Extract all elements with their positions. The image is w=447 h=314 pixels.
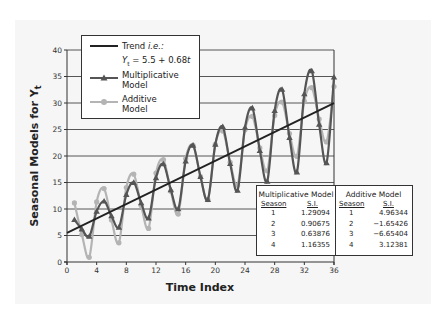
additive-season-2: 2 (349, 220, 353, 228)
multiplicative-point-t30 (286, 134, 292, 140)
y-tick-label-15: 15 (52, 178, 62, 187)
x-tick-label-36: 36 (329, 266, 339, 275)
additive-point-t4 (94, 199, 99, 204)
multiplicative-season-2: 2 (271, 220, 275, 228)
y-axis-title: Seasonal Models for Yt (28, 85, 43, 226)
additive-swatch (90, 97, 118, 107)
multiplicative-si-title: Multiplicative Model (257, 190, 335, 199)
additive-season-1: 1 (349, 209, 353, 217)
x-tick-label-32: 32 (300, 266, 310, 275)
x-tick-label-0: 0 (65, 266, 70, 275)
y-tick-label-40: 40 (52, 46, 62, 55)
y-tick-label-0: 0 (57, 258, 62, 267)
y-tick-label-25: 25 (52, 125, 62, 134)
x-tick-label-24: 24 (240, 266, 250, 275)
additive-si-value-2: −1.65426 (373, 220, 408, 228)
formula-t: t (187, 55, 190, 65)
multiplicative-point-t8 (123, 191, 129, 197)
additive-si-section: Additive Model Season S.I. 14.963442−1.6… (335, 186, 412, 255)
additive-point-t15 (176, 211, 181, 216)
multiplicative-si-header: S.I. (307, 200, 318, 208)
y-tick-label-10: 10 (52, 205, 62, 214)
multiplicative-season-1: 1 (271, 209, 275, 217)
additive-point-t3 (87, 255, 92, 260)
x-tick-label-4: 4 (94, 266, 99, 275)
legend-additive-line1: Additive (122, 94, 157, 104)
y-tick-label-20: 20 (52, 152, 62, 161)
y-tick-label-5: 5 (57, 231, 62, 240)
legend-multiplicative-line2: Model (122, 80, 148, 90)
x-tick-label-28: 28 (270, 266, 280, 275)
multiplicative-point-t14 (168, 187, 174, 193)
additive-point-t7 (116, 240, 121, 245)
multiplicative-si-value-2: 0.90675 (301, 220, 330, 228)
seasonal-index-table: Multiplicative Model Season S.I. 11.2909… (256, 185, 413, 256)
multiplicative-si-section: Multiplicative Model Season S.I. 11.2909… (257, 186, 336, 255)
additive-si-title: Additive Model (335, 190, 412, 199)
legend-trend-label: Trend (122, 41, 148, 51)
additive-si-value-3: −6.65404 (373, 230, 408, 238)
multiplicative-swatch (90, 73, 118, 83)
additive-point-t1 (72, 200, 77, 205)
y-tick-label-30: 30 (52, 99, 62, 108)
multiplicative-si-value-4: 1.16355 (301, 241, 330, 249)
additive-point-t11 (146, 226, 151, 231)
legend: Trend i.e.: Yt = 5.5 + 0.68t Multiplicat… (81, 35, 200, 119)
x-tick-label-12: 12 (151, 266, 161, 275)
formula-rest: = 5.5 + 0.68 (130, 55, 188, 65)
legend-additive-line2: Model (122, 104, 148, 114)
additive-season-4: 4 (349, 241, 353, 249)
multiplicative-season-3: 3 (271, 230, 275, 238)
multiplicative-season-4: 4 (271, 241, 275, 249)
additive-si-header: S.I. (383, 200, 394, 208)
multiplicative-season-header: Season (261, 200, 286, 208)
additive-point-t5 (101, 186, 106, 191)
y-tick-label-35: 35 (52, 72, 62, 81)
legend-multiplicative-line1: Multiplicative (122, 70, 179, 80)
multiplicative-point-t12 (153, 175, 159, 181)
additive-si-value-1: 4.96344 (379, 209, 408, 217)
x-tick-label-16: 16 (181, 266, 191, 275)
x-axis-title: Time Index (166, 281, 234, 294)
trend-line-swatch (90, 41, 118, 51)
chart: 051015202530354004812162024283236 Time I… (0, 0, 447, 314)
y-axis-title-subscript: t (34, 85, 43, 89)
additive-season-header: Season (339, 200, 364, 208)
additive-si-value-4: 3.12381 (379, 241, 408, 249)
y-axis-title-text: Seasonal Models for Y (28, 88, 41, 226)
additive-season-3: 3 (349, 230, 353, 238)
additive-point-t9 (131, 172, 136, 177)
legend-trend-ie: i.e.: (148, 41, 164, 51)
x-tick-label-8: 8 (124, 266, 129, 275)
multiplicative-si-value-3: 0.63876 (301, 230, 330, 238)
x-tick-label-20: 20 (211, 266, 221, 275)
multiplicative-si-value-1: 1.29094 (301, 209, 330, 217)
